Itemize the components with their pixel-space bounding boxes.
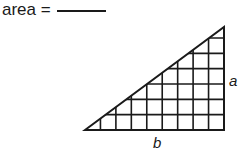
triangle-diagram: a b <box>0 0 244 153</box>
base-label: b <box>153 134 161 151</box>
height-label: a <box>229 72 237 89</box>
